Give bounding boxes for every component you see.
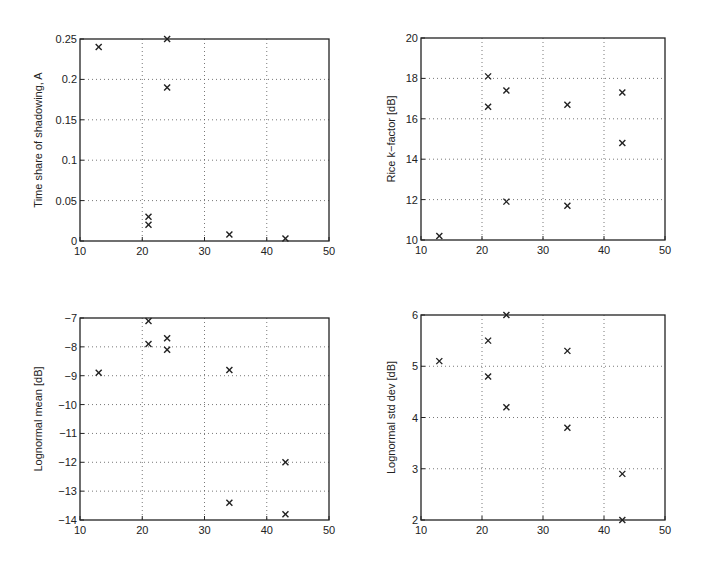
data-point-x-marker	[145, 318, 151, 324]
data-point-x-marker	[282, 459, 288, 465]
data-point-x-marker	[564, 102, 570, 108]
x-tick-label: 30	[537, 244, 549, 256]
data-point-x-marker	[145, 341, 151, 347]
x-tick-label: 20	[476, 524, 488, 536]
x-tick-label: 50	[323, 524, 335, 536]
x-tick-label: 50	[659, 244, 671, 256]
data-point-x-marker	[485, 104, 491, 110]
x-tick-label: 40	[261, 245, 273, 257]
figure: 102030405000.050.10.150.20.25Time share …	[0, 0, 706, 566]
y-tick-label: −9	[64, 370, 77, 382]
data-point-x-marker	[96, 370, 102, 376]
y-tick-label: 18	[406, 72, 418, 84]
y-tick-label: −12	[58, 456, 77, 468]
data-point-x-marker	[564, 425, 570, 431]
subplot-rice-k-factor: 1020304050101214161820Rice k−factor [dB]	[385, 32, 671, 256]
y-tick-label: 0.1	[62, 154, 77, 166]
y-tick-label: 3	[412, 463, 418, 475]
x-tick-label: 40	[598, 524, 610, 536]
data-point-x-marker	[503, 404, 509, 410]
y-axis-label: Lognormal mean [dB]	[32, 366, 44, 471]
x-tick-label: 50	[323, 245, 335, 257]
y-tick-label: −11	[59, 427, 77, 439]
y-tick-label: 2	[412, 514, 418, 526]
y-tick-label: −13	[58, 485, 77, 497]
data-point-x-marker	[619, 471, 625, 477]
data-point-x-marker	[619, 90, 625, 96]
y-tick-label: 0.05	[56, 195, 77, 207]
y-tick-label: 14	[406, 153, 418, 165]
data-point-x-marker	[485, 73, 491, 79]
data-point-x-marker	[226, 367, 232, 373]
x-tick-label: 40	[598, 244, 610, 256]
data-point-x-marker	[485, 374, 491, 380]
data-point-x-marker	[145, 214, 151, 220]
data-point-x-marker	[619, 140, 625, 146]
x-tick-label: 30	[537, 524, 549, 536]
data-point-x-marker	[485, 338, 491, 344]
x-tick-label: 30	[198, 245, 210, 257]
data-point-x-marker	[564, 348, 570, 354]
data-point-x-marker	[164, 84, 170, 90]
data-point-x-marker	[226, 232, 232, 238]
y-tick-label: 4	[412, 412, 418, 424]
y-tick-label: 16	[406, 113, 418, 125]
y-axis-label: Lognormal std dev [dB]	[385, 361, 397, 474]
data-point-x-marker	[164, 347, 170, 353]
x-tick-label: 30	[198, 524, 210, 536]
data-point-x-marker	[96, 44, 102, 50]
y-axis-label: Time share of shadowing, A	[32, 72, 44, 208]
y-tick-label: −7	[64, 312, 77, 324]
subplot-time-share-shadowing: 102030405000.050.10.150.20.25Time share …	[32, 33, 335, 257]
y-tick-label: 0.25	[56, 33, 77, 45]
x-tick-label: 50	[659, 524, 671, 536]
y-axis-label: Rice k−factor [dB]	[385, 95, 397, 182]
x-tick-label: 20	[136, 524, 148, 536]
x-tick-label: 40	[261, 524, 273, 536]
data-point-x-marker	[436, 233, 442, 239]
x-tick-label: 20	[476, 244, 488, 256]
y-tick-label: 5	[412, 360, 418, 372]
data-point-x-marker	[226, 500, 232, 506]
x-tick-label: 20	[136, 245, 148, 257]
data-point-x-marker	[503, 88, 509, 94]
y-tick-label: 12	[406, 194, 418, 206]
y-tick-label: 0.2	[62, 73, 77, 85]
data-point-x-marker	[436, 358, 442, 364]
y-tick-label: 0.15	[56, 114, 77, 126]
subplot-lognormal-std-dev: 102030405023456Lognormal std dev [dB]	[385, 309, 671, 536]
y-tick-label: 6	[412, 309, 418, 321]
data-point-x-marker	[282, 511, 288, 517]
data-point-x-marker	[145, 222, 151, 228]
data-point-x-marker	[503, 199, 509, 205]
subplot-lognormal-mean: 1020304050−14−13−12−11−10−9−8−7Lognormal…	[32, 312, 335, 536]
y-tick-label: 0	[71, 235, 77, 247]
y-tick-label: −8	[64, 341, 77, 353]
y-tick-label: 10	[406, 234, 418, 246]
y-tick-label: −14	[58, 514, 77, 526]
y-tick-label: −10	[58, 399, 77, 411]
y-tick-label: 20	[406, 32, 418, 44]
data-point-x-marker	[164, 335, 170, 341]
data-point-x-marker	[564, 203, 570, 209]
